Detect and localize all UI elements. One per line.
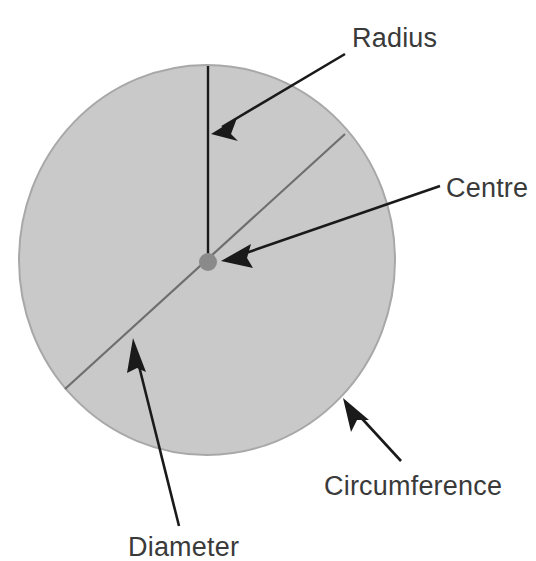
centre-point-dot: [199, 253, 217, 271]
label-diameter: Diameter: [128, 532, 239, 561]
label-centre: Centre: [446, 173, 528, 203]
label-circumference: Circumference: [324, 471, 502, 501]
diagram-canvas: Radius Centre Circumference Diameter: [0, 0, 536, 561]
circumference-leader-arrow: [343, 398, 401, 461]
circle-diagram: Radius Centre Circumference Diameter: [0, 0, 536, 561]
label-radius: Radius: [352, 23, 437, 53]
